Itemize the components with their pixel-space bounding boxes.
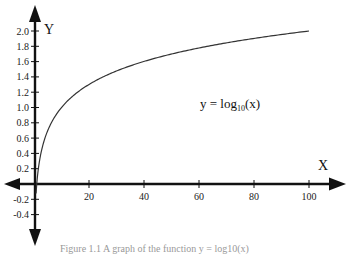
figure-caption: Figure 1.1 A graph of the function y = l…	[60, 243, 249, 255]
log-chart: 20406080100 2.01.81.61.41.21.00.80.60.40…	[0, 0, 353, 255]
y-tick-label: 2.0	[17, 26, 30, 37]
x-tick-label: 20	[84, 191, 94, 202]
x-tick-label: 40	[139, 191, 149, 202]
equation-annotation: y = log10(x)	[200, 96, 260, 113]
log-curve	[36, 31, 309, 194]
y-tick-label: 1.4	[17, 71, 30, 82]
y-tick-label: -0.2	[13, 194, 29, 205]
x-tick-label: 80	[249, 191, 259, 202]
x-tick-label: 100	[302, 191, 317, 202]
y-tick-label: 1.2	[17, 87, 30, 98]
y-axis-label: Y	[44, 22, 54, 37]
y-tick-label: 0.6	[17, 133, 30, 144]
y-tick-label: -0.4	[13, 209, 29, 220]
axes	[4, 5, 346, 246]
y-tick-label: 1.0	[17, 102, 30, 113]
y-axis-up-arrow-icon	[29, 5, 41, 22]
x-axis-right-arrow-icon	[329, 178, 346, 191]
x-tick-label: 60	[194, 191, 204, 202]
y-tick-label: 1.8	[17, 41, 30, 52]
x-axis-left-arrow-icon	[4, 178, 20, 190]
y-tick-label: 0.8	[17, 117, 30, 128]
y-tick-label: 1.6	[17, 56, 30, 67]
y-tick-label: 0.4	[17, 148, 30, 159]
x-axis-label: X	[318, 158, 328, 173]
y-axis-down-arrow-icon	[29, 229, 41, 246]
y-tick-label: 0.2	[17, 163, 30, 174]
